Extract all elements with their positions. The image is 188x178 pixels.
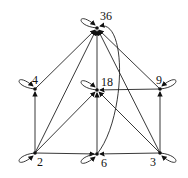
self-loop-2 — [19, 153, 35, 162]
edge-9-18 — [100, 89, 160, 90]
node-label-36: 36 — [100, 10, 112, 22]
edge-4-36 — [35, 30, 95, 89]
node-18 — [95, 88, 99, 92]
self-loop-9 — [160, 80, 176, 89]
node-4 — [33, 87, 37, 91]
node-9 — [158, 87, 162, 91]
edge-3-6 — [100, 153, 160, 154]
node-label-3: 3 — [150, 156, 156, 168]
edge-2-18 — [35, 92, 95, 153]
node-3 — [158, 151, 162, 155]
node-label-4: 4 — [32, 74, 38, 86]
node-label-2: 2 — [37, 156, 43, 168]
directed-graph: 364189263 — [0, 0, 188, 178]
node-label-18: 18 — [101, 76, 113, 88]
edge-3-18 — [99, 92, 160, 153]
node-label-9: 9 — [156, 74, 162, 86]
self-loop-18 — [81, 81, 97, 90]
edge-2-6 — [35, 153, 94, 154]
self-loop-36 — [81, 19, 97, 28]
node-36 — [95, 26, 99, 30]
self-loop-3 — [160, 153, 176, 162]
edge-2-36 — [35, 31, 96, 153]
self-loop-6 — [81, 154, 97, 163]
node-6 — [95, 152, 99, 156]
node-label-6: 6 — [101, 157, 107, 169]
graph-canvas — [0, 0, 188, 178]
